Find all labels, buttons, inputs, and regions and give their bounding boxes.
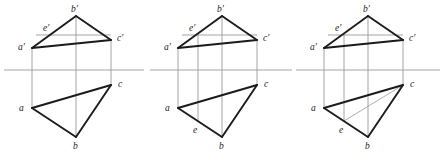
vertex-label-c: c — [410, 79, 415, 89]
vertex-label-a_prime: a′ — [18, 42, 26, 52]
edge-a-b — [178, 108, 222, 137]
edge-a-b — [324, 108, 368, 137]
vertex-label-e_prime: e′ — [189, 23, 196, 33]
vertex-label-b: b — [365, 141, 370, 151]
edge-a_prime-c_prime — [324, 40, 403, 48]
vertex-label-a: a — [311, 103, 316, 113]
edge-a_prime-c_prime — [178, 40, 257, 48]
vertex-label-b: b — [73, 141, 78, 151]
vertex-label-a_prime: a′ — [164, 42, 172, 52]
vertex-label-e_prime: e′ — [43, 23, 50, 33]
vertex-label-a: a — [19, 103, 24, 113]
figure-1-svg: a′b′c′e′abc — [0, 0, 148, 160]
vertex-label-c_prime: c′ — [117, 33, 124, 43]
edge-a-c — [324, 85, 403, 108]
figure-panel-3: a′b′c′e′abce — [292, 0, 444, 160]
figure-panel-1: a′b′c′e′abc — [0, 0, 148, 160]
vertex-label-a_prime: a′ — [310, 42, 318, 52]
figure-3-svg: a′b′c′e′abce — [292, 0, 444, 160]
edge-a-c — [178, 85, 257, 108]
edge-a_prime-c_prime — [32, 40, 111, 48]
vertex-label-e: e — [193, 125, 197, 135]
vertex-label-b_prime: b′ — [71, 4, 79, 14]
edge-a-b — [32, 108, 76, 137]
vertex-label-b: b — [219, 141, 224, 151]
edge-a_prime-b_prime — [324, 16, 368, 48]
edge-b_prime-c_prime — [368, 16, 403, 40]
vertex-label-b_prime: b′ — [363, 4, 371, 14]
vertex-label-c_prime: c′ — [409, 33, 416, 43]
edge-a_prime-b_prime — [32, 16, 76, 48]
figure-2-svg: a′b′c′e′abce — [146, 0, 296, 160]
vertex-label-c: c — [118, 79, 123, 89]
edge-a_prime-b_prime — [178, 16, 222, 48]
edge-b_prime-c_prime — [76, 16, 111, 40]
edge-a-c — [32, 85, 111, 108]
vertex-label-c: c — [264, 79, 269, 89]
vertex-label-b_prime: b′ — [217, 4, 225, 14]
vertex-label-e_prime: e′ — [335, 23, 342, 33]
vertex-label-c_prime: c′ — [263, 33, 270, 43]
vertex-label-a: a — [165, 103, 170, 113]
figure-panel-2: a′b′c′e′abce — [146, 0, 296, 160]
figure-board: a′b′c′e′abc a′b′c′e′abce a′b′c′e′abce — [0, 0, 444, 160]
auxiliary-edge-c-e — [344, 85, 403, 121]
vertex-label-e: e — [339, 125, 343, 135]
edge-b_prime-c_prime — [222, 16, 257, 40]
